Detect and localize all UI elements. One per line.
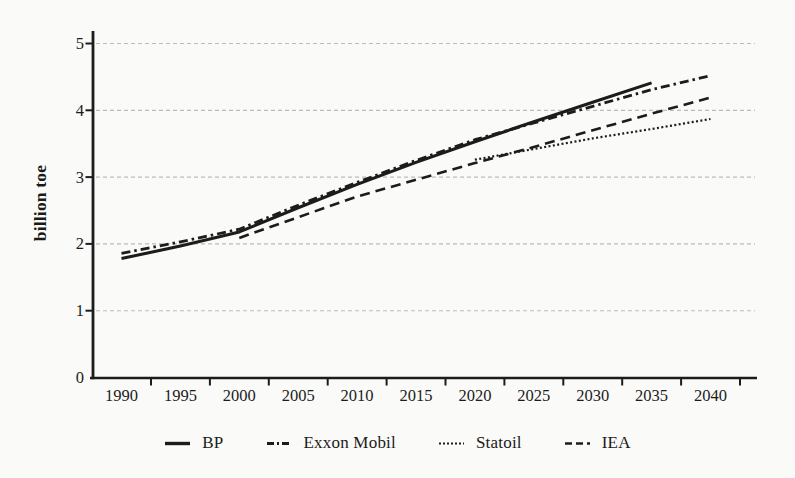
y-tick-label-3: 3 bbox=[76, 168, 84, 187]
line-chart-plot-area: 0123451990199520002005201020152020202520… bbox=[0, 0, 795, 415]
legend-label-bp: BP bbox=[202, 433, 223, 453]
y-tick-label-0: 0 bbox=[76, 368, 84, 387]
x-tick-label-2005: 2005 bbox=[282, 386, 315, 405]
x-tick-label-2020: 2020 bbox=[458, 386, 491, 405]
x-tick-label-2000: 2000 bbox=[223, 386, 256, 405]
series-line-iea bbox=[239, 98, 710, 238]
series-line-exxon-mobil bbox=[122, 76, 711, 254]
legend-item-bp: BP bbox=[164, 433, 223, 453]
y-tick-label-1: 1 bbox=[76, 301, 84, 320]
statoil-dotted-line-icon bbox=[438, 439, 465, 448]
legend-label-exxon-mobil: Exxon Mobil bbox=[304, 433, 396, 453]
x-tick-label-2015: 2015 bbox=[400, 386, 433, 405]
x-tick-label-1990: 1990 bbox=[105, 386, 138, 405]
legend-item-statoil: Statoil bbox=[438, 433, 522, 453]
y-tick-label-4: 4 bbox=[76, 101, 84, 120]
legend-item-iea: IEA bbox=[564, 433, 631, 453]
y-axis-title: billion toe bbox=[30, 165, 51, 242]
series-line-statoil bbox=[475, 119, 711, 160]
x-tick-label-2035: 2035 bbox=[635, 386, 668, 405]
legend-label-iea: IEA bbox=[602, 433, 631, 453]
y-tick-label-5: 5 bbox=[76, 34, 84, 53]
x-tick-label-2025: 2025 bbox=[517, 386, 550, 405]
x-tick-label-1995: 1995 bbox=[164, 386, 197, 405]
legend-label-statoil: Statoil bbox=[476, 433, 522, 453]
x-tick-label-2040: 2040 bbox=[694, 386, 727, 405]
x-tick-label-2010: 2010 bbox=[341, 386, 374, 405]
legend-item-exxon-mobil: Exxon Mobil bbox=[266, 433, 396, 453]
exxon-dashdot-line-icon bbox=[266, 439, 293, 448]
x-tick-label-2030: 2030 bbox=[576, 386, 609, 405]
iea-dashed-line-icon bbox=[564, 439, 591, 448]
chart-legend: BP Exxon Mobil Statoil IEA bbox=[0, 433, 795, 453]
bp-solid-line-icon bbox=[164, 439, 191, 448]
chart-figure: billion toe 0123451990199520002005201020… bbox=[0, 0, 795, 478]
y-tick-label-2: 2 bbox=[76, 234, 84, 253]
